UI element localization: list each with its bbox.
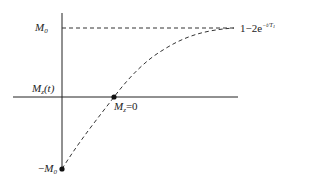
recovery-curve bbox=[62, 28, 234, 169]
curve-equation-label: 1−2e−t/T1 bbox=[240, 22, 275, 34]
initial-point bbox=[59, 166, 64, 171]
zero-crossing-label: Mz=0 bbox=[114, 101, 138, 114]
zero-crossing-point bbox=[111, 94, 116, 99]
lower-level-label: −M0 bbox=[38, 163, 57, 176]
y-axis-label: Mz(t) bbox=[32, 83, 54, 96]
upper-level-label: M0 bbox=[35, 22, 48, 35]
